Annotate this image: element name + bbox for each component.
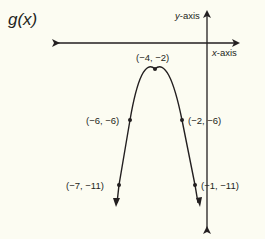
graph: y-axis x-axis (−4, −2) (−6, −6) (−2, −6)… — [0, 0, 265, 239]
y-axis-label: y-axis — [174, 10, 200, 21]
point-right-2 — [193, 183, 197, 187]
label-left-2: (−7, −11) — [66, 180, 104, 191]
point-vertex — [153, 67, 157, 71]
point-left-1 — [128, 118, 132, 122]
point-left-2 — [117, 183, 121, 187]
label-right-1: (−2, −6) — [188, 115, 221, 126]
label-vertex: (−4, −2) — [136, 52, 169, 63]
x-axis-label: x-axis — [211, 47, 237, 58]
arrow-left-end — [113, 198, 120, 207]
label-left-1: (−6, −6) — [86, 115, 119, 126]
label-right-2: (−1, −11) — [201, 180, 239, 191]
parabola-curve — [117, 67, 198, 203]
point-right-1 — [180, 118, 184, 122]
